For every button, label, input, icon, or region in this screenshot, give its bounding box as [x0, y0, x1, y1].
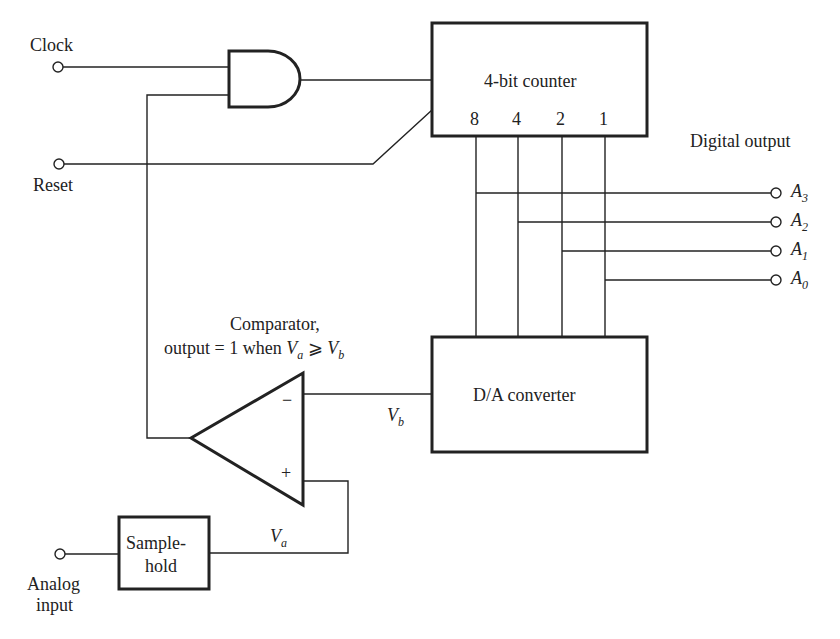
comparator-vb-sub: b [338, 348, 344, 362]
output-a0-sub: 0 [802, 278, 808, 292]
output-a1: A1 [791, 240, 808, 262]
vb-sub: b [398, 415, 404, 429]
comparator-title-line1: Comparator, [230, 315, 320, 333]
output-a2-name: A [791, 210, 802, 230]
output-a3: A3 [791, 182, 808, 204]
vb-name: V [387, 405, 398, 425]
dac-label: D/A converter [473, 386, 575, 404]
output-a0: A0 [791, 269, 808, 291]
comparator-plus: + [281, 464, 291, 482]
comparator-va: V [286, 338, 297, 358]
output-a2: A2 [791, 211, 808, 233]
a1-terminal [771, 246, 781, 256]
digital-output-title: Digital output [690, 132, 791, 150]
reset-wire [64, 110, 432, 164]
counter-bit-4: 4 [512, 110, 521, 128]
clock-label: Clock [30, 36, 73, 54]
output-a3-sub: 3 [802, 191, 808, 205]
sample-hold-block [119, 517, 209, 589]
sample-hold-label-line1: Sample- [126, 534, 186, 552]
comparator-op: ⩾ [303, 338, 327, 358]
comparator-feedback-wire [147, 95, 229, 438]
reset-terminal [54, 159, 64, 169]
counter-bit-8: 8 [470, 110, 479, 128]
va-label: Va [270, 527, 287, 549]
output-a3-name: A [791, 181, 802, 201]
analog-input-label-line2: input [36, 596, 73, 614]
a2-terminal [771, 217, 781, 227]
counter-bit-1: 1 [599, 110, 608, 128]
output-a2-sub: 2 [802, 220, 808, 234]
comparator-title-line2: output = 1 when Va ⩾ Vb [164, 339, 344, 361]
output-a0-name: A [791, 268, 802, 288]
a0-terminal [771, 275, 781, 285]
va-sub: a [281, 536, 287, 550]
reset-label: Reset [33, 176, 73, 194]
counter-label: 4-bit counter [484, 72, 576, 90]
comparator-vb: V [327, 338, 338, 358]
output-a1-sub: 1 [802, 249, 808, 263]
and-gate [229, 51, 300, 107]
clock-terminal [53, 62, 63, 72]
analog-input-terminal [55, 549, 65, 559]
va-name: V [270, 526, 281, 546]
vb-label: Vb [387, 406, 404, 428]
comparator-minus: − [282, 391, 292, 409]
comparator-condition-prefix: output = 1 when [164, 338, 286, 358]
counter-bit-2: 2 [556, 110, 565, 128]
output-a1-name: A [791, 239, 802, 259]
a3-terminal [771, 188, 781, 198]
analog-input-label-line1: Analog [27, 575, 80, 593]
sample-hold-label-line2: hold [145, 557, 177, 575]
